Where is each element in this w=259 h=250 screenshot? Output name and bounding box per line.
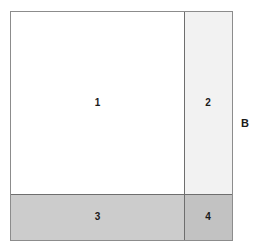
mosaic-cell-3-label: 3 (95, 212, 101, 222)
mosaic-cell-2[interactable]: 2 (184, 12, 232, 194)
mosaic-cell-2-label: 2 (205, 98, 211, 108)
axis-label-b: B (241, 118, 249, 129)
mosaic-cell-4[interactable]: 4 (184, 194, 232, 240)
mosaic-figure: 1 2 3 4 B (0, 0, 259, 250)
mosaic-cell-1-label: 1 (95, 98, 101, 108)
mosaic-cell-4-label: 4 (205, 212, 211, 222)
mosaic-cell-1[interactable]: 1 (11, 12, 184, 194)
mosaic-outer-box: 1 2 3 4 (10, 11, 233, 241)
mosaic-vertical-divider (184, 12, 185, 240)
mosaic-cell-3[interactable]: 3 (11, 194, 184, 240)
mosaic-horizontal-divider (11, 194, 232, 195)
